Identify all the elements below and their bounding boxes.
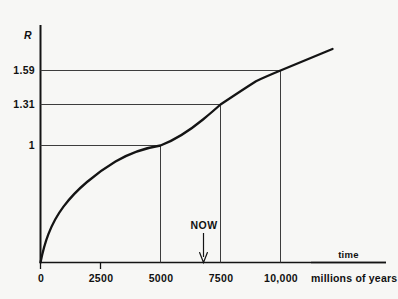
- x-tick-label-2500: 2500: [76, 272, 126, 284]
- x-axis-title: time: [311, 249, 386, 260]
- y-axis-title: R: [24, 29, 32, 41]
- x-axis-units-label: millions of years: [311, 272, 397, 284]
- y-tick-label-159: 1.59: [0, 64, 35, 76]
- x-tick-label-7500: 7500: [196, 272, 246, 284]
- y-tick-label-131: 1.31: [0, 98, 35, 110]
- scale-factor-vs-time-chart: R 1.59 1.31 1 0 2500 5000 7500 10,000 ti…: [0, 0, 398, 299]
- x-tick-label-0: 0: [26, 272, 56, 284]
- now-annotation-label: NOW: [184, 219, 224, 231]
- y-tick-label-1: 1: [0, 139, 35, 151]
- x-tick-label-5000: 5000: [136, 272, 186, 284]
- x-tick-label-10000: 10,000: [252, 272, 310, 284]
